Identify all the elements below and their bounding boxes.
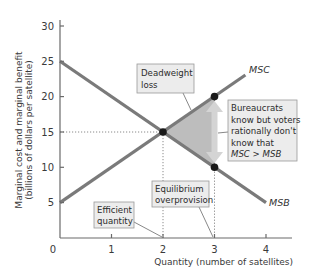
svg-text:Deadweight: Deadweight [141, 68, 193, 78]
svg-text:3: 3 [211, 244, 217, 255]
svg-text:20: 20 [41, 91, 54, 102]
svg-text:overprovision: overprovision [155, 195, 213, 205]
svg-text:25: 25 [41, 56, 54, 67]
chart: Marginal cost and marginal benefit (bill… [0, 0, 311, 277]
overprovision-box: Equilibrium overprovision [152, 181, 213, 207]
svg-text:Efficient: Efficient [97, 205, 133, 215]
svg-text:0: 0 [50, 244, 56, 255]
equilibrium-point [159, 128, 167, 136]
svg-text:4: 4 [263, 244, 269, 255]
efficient-quantity-box: Efficient quantity [94, 202, 134, 228]
svg-text:15: 15 [41, 127, 54, 138]
gap-arrow-shaft [212, 110, 218, 154]
svg-text:know but voters: know but voters [231, 115, 301, 125]
svg-text:5: 5 [48, 197, 54, 208]
svg-text:1: 1 [108, 244, 114, 255]
y-tick-labels: 30 25 20 15 10 5 [41, 21, 54, 209]
x-axis-title: Quantity (number of satellites) [154, 257, 293, 267]
msb-label: MSB [269, 197, 290, 208]
svg-text:30: 30 [41, 21, 54, 32]
deadweight-leader [183, 93, 191, 110]
svg-text:rationally don't: rationally don't [231, 126, 297, 136]
deadweight-loss-region [163, 97, 215, 168]
svg-text:2: 2 [160, 244, 166, 255]
svg-text:loss: loss [141, 80, 158, 90]
svg-text:10: 10 [41, 162, 54, 173]
overprovision-leader [199, 207, 213, 237]
x-tick-labels: 0 1 2 3 4 [50, 244, 269, 255]
y-axis-title: Marginal cost and marginal benefit (bill… [14, 51, 34, 209]
svg-text:Equilibrium: Equilibrium [155, 184, 204, 194]
svg-text:know that: know that [231, 138, 275, 148]
msc-label: MSC [249, 64, 270, 75]
svg-text:MSC > MSB: MSC > MSB [231, 149, 281, 159]
deadweight-loss-box: Deadweight loss [137, 64, 194, 93]
bureaucrats-leader [218, 132, 228, 133]
msc-point [211, 93, 219, 101]
svg-text:quantity: quantity [97, 216, 133, 226]
svg-text:Bureaucrats: Bureaucrats [231, 103, 284, 113]
msb-point [211, 164, 219, 172]
svg-text:Marginal cost and marginal ben: Marginal cost and marginal benefit [14, 51, 24, 209]
bureaucrats-box: Bureaucrats know but voters rationally d… [228, 100, 301, 161]
efficient-leader [134, 222, 162, 237]
svg-text:(billions of dollars per satel: (billions of dollars per satellite) [24, 60, 34, 200]
